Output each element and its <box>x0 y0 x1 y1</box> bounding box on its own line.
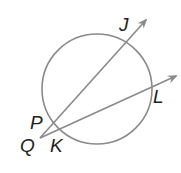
label-j: J <box>118 14 129 35</box>
label-l: L <box>153 86 164 107</box>
ray-qj <box>40 20 146 138</box>
label-p: P <box>30 112 43 133</box>
label-k: K <box>50 135 64 156</box>
label-q: Q <box>20 135 35 156</box>
secant-diagram: J L P Q K <box>0 0 181 173</box>
circle <box>42 34 152 144</box>
